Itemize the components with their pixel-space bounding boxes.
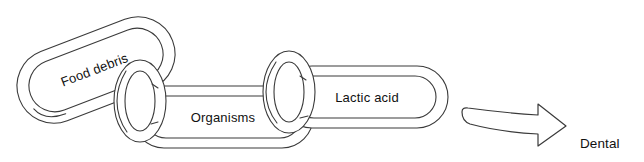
outcome-label-line-1: Dental	[580, 136, 620, 151]
outcome-label-dental-caries: Dental Caries	[580, 106, 620, 162]
dental-caries-chain-diagram: Food debris Organisms Lactic acid Dental…	[0, 0, 644, 162]
connector-ring-right-inner	[274, 62, 304, 122]
outcome-arrow-icon	[462, 104, 566, 146]
connector-ring-left-inner	[125, 71, 155, 131]
chain-illustration: Food debris Organisms Lactic acid	[0, 0, 644, 162]
connector-ring-right	[263, 51, 315, 133]
connector-ring-left	[114, 60, 166, 142]
chain-link-label-lactic-acid: Lactic acid	[335, 90, 399, 105]
chain-link-label-organisms: Organisms	[191, 110, 256, 125]
